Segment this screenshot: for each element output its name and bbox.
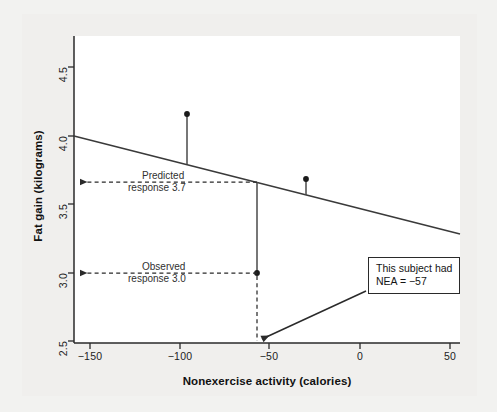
data-points: [184, 111, 309, 276]
x-tick-label: −50: [239, 350, 299, 362]
x-axis-title: Nonexercise activity (calories): [74, 375, 460, 387]
y-tick-label: 4.0: [57, 136, 69, 176]
y-tick-label: 3.0: [57, 273, 69, 313]
predicted-annotation-line2: response 3.7: [128, 182, 186, 194]
subject-callout-box: This subject had NEA = −57: [368, 257, 460, 294]
y-tick-label: 2.5: [57, 341, 69, 381]
observed-annotation-line1: Observed: [128, 261, 186, 273]
figure-container: −150 −100 −50 0 50 4.5 4.0 3.5 3.0 2.5 N…: [0, 0, 497, 412]
x-tick-label: 50: [420, 350, 480, 362]
callout-leader-arrow: [262, 291, 366, 339]
y-tick-label: 3.5: [57, 204, 69, 244]
x-tick-label: −100: [150, 350, 210, 362]
observed-response-annotation: Observed response 3.0: [128, 261, 186, 284]
x-tick-label: 0: [330, 350, 390, 362]
callout-line2: NEA = −57: [376, 275, 452, 288]
callout-line1: This subject had: [376, 262, 452, 275]
residual-lines: [187, 115, 306, 273]
y-axis-title: Fat gain (kilograms): [32, 86, 44, 286]
data-point: [184, 111, 190, 117]
y-tick-label: 4.5: [57, 67, 69, 107]
x-tick-label: −150: [60, 350, 120, 362]
data-point: [303, 176, 309, 182]
predicted-response-annotation: Predicted response 3.7: [128, 170, 186, 193]
x-axis-ticks: [90, 343, 450, 349]
observed-annotation-line2: response 3.0: [128, 273, 186, 285]
predicted-annotation-line1: Predicted: [128, 170, 186, 182]
